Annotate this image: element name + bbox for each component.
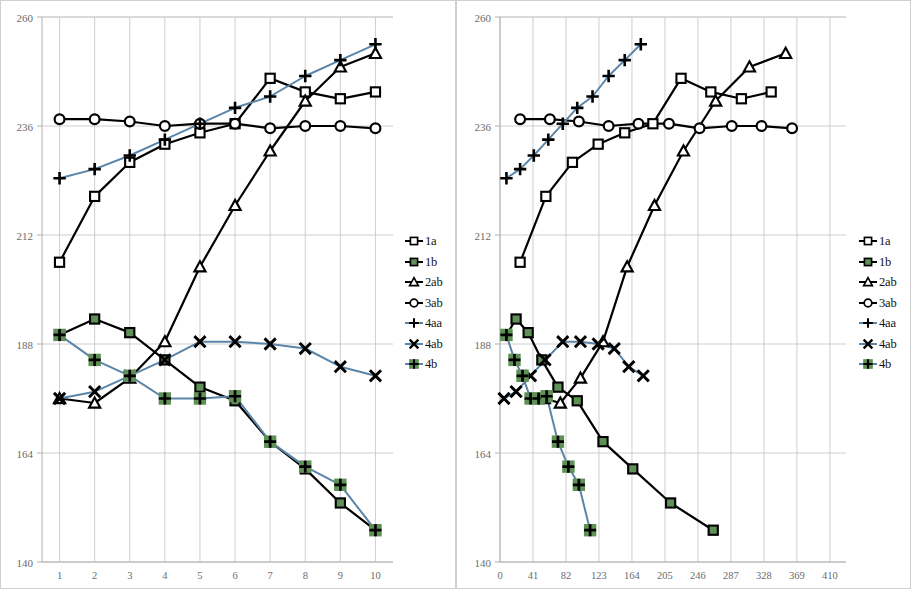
x-tick-label: 287 bbox=[723, 570, 739, 581]
marker-square bbox=[371, 87, 380, 96]
marker-square bbox=[594, 140, 603, 149]
y-tick-label: 164 bbox=[17, 448, 34, 460]
marker-triangle bbox=[410, 278, 419, 286]
marker-square bbox=[541, 192, 550, 201]
marker-circle bbox=[545, 114, 555, 124]
line-chart-right: 1401641882122362600418212316420524628732… bbox=[456, 0, 911, 589]
legend-item-4aa: 4aa bbox=[404, 313, 442, 334]
marker-square bbox=[55, 258, 64, 267]
legend-label: 3ab bbox=[879, 293, 896, 314]
marker-square bbox=[864, 238, 871, 245]
marker-square bbox=[125, 328, 134, 337]
legend-left: 1a1b2ab3ab4aa4ab4b bbox=[404, 231, 442, 375]
y-tick-label: 188 bbox=[17, 339, 34, 351]
y-tick-label: 188 bbox=[475, 339, 492, 351]
legend-marker-square-icon bbox=[858, 234, 878, 248]
x-tick-label: 369 bbox=[789, 570, 805, 581]
legend-label: 3ab bbox=[425, 293, 442, 314]
y-tick-label: 236 bbox=[475, 121, 492, 133]
marker-circle bbox=[604, 121, 614, 131]
marker-circle bbox=[787, 123, 797, 133]
legend-marker-plus-on-green-icon bbox=[404, 357, 424, 371]
y-tick-label: 140 bbox=[475, 557, 492, 569]
legend-swatch-group bbox=[859, 238, 877, 245]
marker-circle bbox=[757, 121, 767, 131]
marker-square bbox=[266, 74, 275, 83]
x-tick-label: 7 bbox=[268, 570, 273, 581]
x-tick-label: 328 bbox=[756, 570, 772, 581]
marker-square bbox=[568, 158, 577, 167]
marker-plus bbox=[369, 38, 381, 50]
y-tick-label: 164 bbox=[475, 448, 492, 460]
marker-square bbox=[90, 314, 99, 323]
marker-circle bbox=[335, 121, 345, 131]
marker-plus bbox=[229, 102, 241, 114]
marker-plus bbox=[53, 172, 65, 184]
y-tick-label: 260 bbox=[475, 12, 492, 24]
marker-circle bbox=[90, 114, 100, 124]
legend-item-3ab: 3ab bbox=[858, 293, 896, 314]
figure-panels: 14016418821223626012345678910 1a1b2ab3ab… bbox=[0, 0, 911, 589]
series-line-3ab bbox=[60, 119, 376, 128]
y-tick-label: 212 bbox=[17, 230, 34, 242]
marker-circle bbox=[265, 123, 275, 133]
x-tick-label: 3 bbox=[127, 570, 132, 581]
marker-cross bbox=[609, 343, 620, 354]
x-tick-label: 410 bbox=[822, 570, 838, 581]
legend-label: 4aa bbox=[425, 313, 442, 334]
marker-square bbox=[666, 498, 675, 507]
legend-item-4aa: 4aa bbox=[858, 313, 896, 334]
marker-triangle bbox=[744, 61, 755, 71]
x-tick-label: 82 bbox=[561, 570, 572, 581]
marker-square bbox=[336, 94, 345, 103]
marker-square bbox=[410, 258, 417, 265]
marker-square bbox=[767, 87, 776, 96]
marker-circle bbox=[634, 119, 644, 129]
series-line-4ab bbox=[60, 342, 376, 399]
marker-plus bbox=[299, 70, 311, 82]
series-line-4b bbox=[60, 335, 376, 530]
marker-triangle bbox=[575, 372, 586, 382]
x-tick-label: 5 bbox=[197, 570, 202, 581]
marker-circle bbox=[371, 123, 381, 133]
legend-marker-square-icon bbox=[404, 255, 424, 269]
legend-label: 1a bbox=[879, 231, 890, 252]
y-axis-labels: 140164188212236260 bbox=[475, 12, 501, 569]
marker-triangle bbox=[864, 278, 873, 286]
marker-circle bbox=[300, 121, 310, 131]
marker-square bbox=[628, 464, 637, 473]
legend-swatch-group bbox=[405, 318, 423, 328]
legend-label: 1b bbox=[879, 252, 891, 273]
legend-item-4ab: 4ab bbox=[404, 334, 442, 355]
marker-square bbox=[706, 87, 715, 96]
legend-swatch-group bbox=[405, 299, 423, 307]
x-tick-label: 6 bbox=[232, 570, 237, 581]
marker-square bbox=[737, 94, 746, 103]
series-markers-4b bbox=[500, 329, 596, 537]
legend-label: 2ab bbox=[425, 272, 442, 293]
x-tick-label: 205 bbox=[657, 570, 673, 581]
legend-item-1b: 1b bbox=[858, 252, 896, 273]
x-tick-label: 4 bbox=[162, 570, 168, 581]
marker-circle bbox=[125, 117, 135, 127]
legend-label: 2ab bbox=[879, 272, 896, 293]
legend-marker-plus-icon bbox=[404, 316, 424, 330]
marker-plus bbox=[88, 163, 100, 175]
series-line-1b bbox=[506, 319, 713, 530]
x-tick-label: 8 bbox=[303, 570, 308, 581]
marker-square bbox=[524, 328, 533, 337]
marker-square bbox=[709, 526, 718, 535]
grid-group bbox=[500, 17, 846, 562]
legend-swatch-group bbox=[405, 238, 423, 245]
marker-square bbox=[90, 192, 99, 201]
x-tick-label: 9 bbox=[338, 570, 343, 581]
legend-marker-circle-icon bbox=[404, 296, 424, 310]
marker-circle bbox=[664, 119, 674, 129]
legend-item-1b: 1b bbox=[404, 252, 442, 273]
marker-circle bbox=[410, 299, 418, 307]
marker-square bbox=[648, 119, 657, 128]
legend-item-1a: 1a bbox=[858, 231, 896, 252]
legend-marker-triangle-icon bbox=[858, 275, 878, 289]
series-markers-1b bbox=[55, 314, 380, 534]
marker-cross bbox=[638, 370, 649, 381]
